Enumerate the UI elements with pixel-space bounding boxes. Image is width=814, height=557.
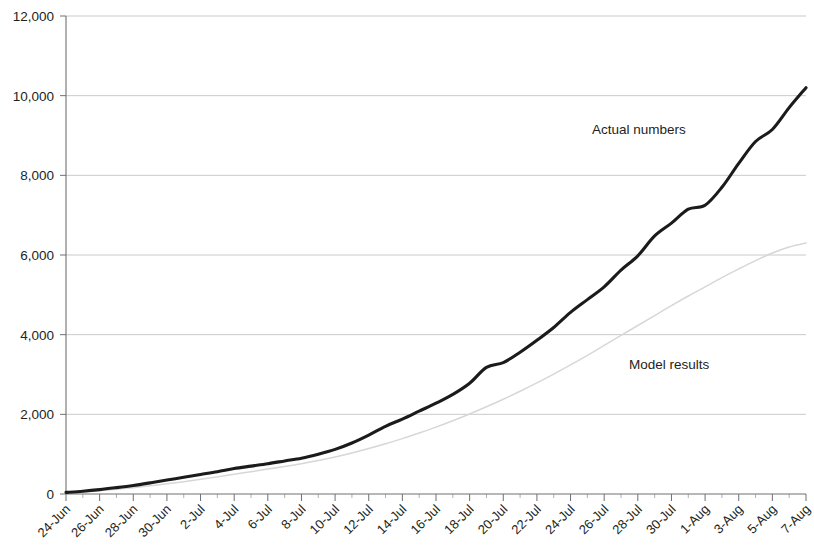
x-tick-label: 4-Jul	[211, 501, 242, 532]
x-tick-label: 24-Jun	[34, 502, 73, 541]
y-axis-ticks	[60, 16, 66, 494]
y-tick-label: 2,000	[20, 407, 54, 422]
x-tick-label: 28-Jul	[609, 501, 645, 537]
y-tick-label: 0	[46, 487, 54, 502]
x-tick-label: 2-Jul	[177, 501, 208, 532]
x-tick-label: 20-Jul	[475, 501, 511, 537]
x-tick-label: 8-Jul	[278, 501, 309, 532]
y-tick-label: 6,000	[20, 248, 54, 263]
x-tick-label: 30-Jun	[135, 502, 174, 541]
series-line-actual-numbers	[66, 88, 806, 493]
y-tick-label: 8,000	[20, 168, 54, 183]
x-tick-label: 26-Jul	[576, 501, 612, 537]
series-annotation-actual-numbers: Actual numbers	[592, 122, 686, 137]
x-tick-label: 28-Jun	[102, 502, 141, 541]
x-tick-label: 30-Jul	[643, 501, 679, 537]
x-tick-label: 10-Jul	[307, 501, 343, 537]
chart-canvas: 02,0004,0006,0008,00010,00012,000 24-Jun…	[0, 0, 814, 557]
x-tick-label: 12-Jul	[340, 501, 376, 537]
x-tick-label: 7-Aug	[778, 502, 813, 537]
x-tick-label: 14-Jul	[374, 501, 410, 537]
x-tick-label: 5-Aug	[744, 502, 779, 537]
x-tick-label: 3-Aug	[711, 502, 746, 537]
y-tick-label: 12,000	[13, 9, 54, 24]
x-tick-label: 18-Jul	[441, 501, 477, 537]
x-tick-label: 26-Jun	[68, 502, 107, 541]
series-annotation-model-results: Model results	[629, 357, 710, 372]
x-axis-ticks	[66, 494, 806, 501]
x-tick-label: 16-Jul	[407, 501, 443, 537]
y-axis-tick-labels: 02,0004,0006,0008,00010,00012,000	[13, 9, 54, 502]
x-tick-label: 6-Jul	[244, 501, 275, 532]
y-tick-label: 10,000	[13, 89, 54, 104]
x-tick-label: 1-Aug	[677, 502, 712, 537]
x-axis-tick-labels: 24-Jun26-Jun28-Jun30-Jun2-Jul4-Jul6-Jul8…	[34, 501, 813, 540]
x-tick-label: 22-Jul	[508, 501, 544, 537]
line-chart: 02,0004,0006,0008,00010,00012,000 24-Jun…	[0, 0, 814, 557]
gridlines	[66, 16, 806, 414]
y-tick-label: 4,000	[20, 328, 54, 343]
x-tick-label: 24-Jul	[542, 501, 578, 537]
